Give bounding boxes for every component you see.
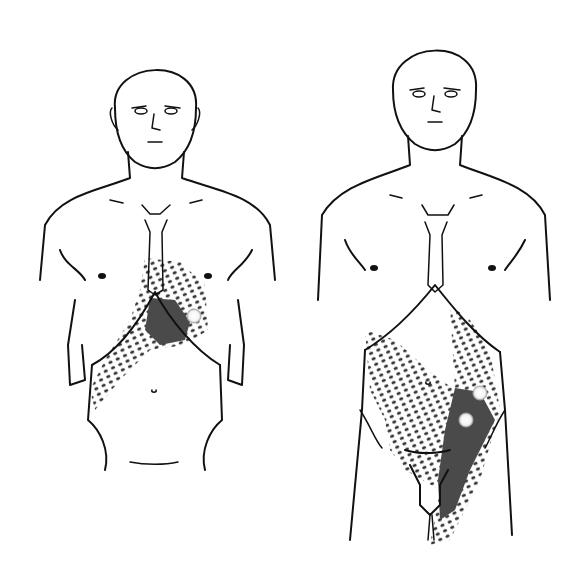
left-trigger-point bbox=[187, 309, 201, 323]
anatomy-illustration bbox=[0, 0, 584, 568]
right-figure bbox=[318, 51, 550, 545]
left-figure bbox=[40, 70, 275, 470]
figure-canvas bbox=[0, 0, 584, 568]
right-trigger-point-lower bbox=[459, 413, 473, 427]
right-trigger-point-upper bbox=[473, 386, 487, 400]
